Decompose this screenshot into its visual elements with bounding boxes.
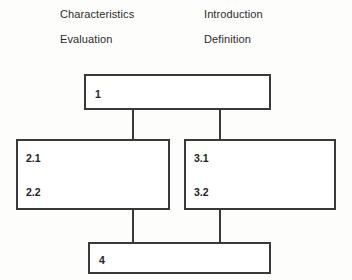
node-label-2-2: 2.2 (26, 186, 41, 198)
connector-node1-to-node2 (132, 108, 134, 141)
connector-node3-to-node4 (219, 208, 221, 244)
diagram-canvas: Characteristics Evaluation Introduction … (0, 0, 352, 280)
node-box-1[interactable]: 1 (84, 74, 271, 110)
legend-label-characteristics: Characteristics (60, 8, 134, 21)
node-label-3-1: 3.1 (194, 152, 209, 164)
connector-node1-to-node3 (219, 108, 221, 141)
node-label-1: 1 (95, 88, 101, 100)
node-label-2-1: 2.1 (26, 152, 41, 164)
node-label-3-2: 3.2 (194, 186, 209, 198)
connector-node2-to-node4 (132, 208, 134, 244)
node-box-3[interactable]: 3.1 3.2 (184, 139, 336, 210)
node-box-2[interactable]: 2.1 2.2 (16, 139, 170, 210)
legend-label-evaluation: Evaluation (60, 33, 112, 46)
node-label-4: 4 (99, 254, 105, 266)
legend-label-introduction: Introduction (204, 8, 263, 21)
legend-label-definition: Definition (204, 33, 251, 46)
node-box-4[interactable]: 4 (88, 242, 271, 274)
